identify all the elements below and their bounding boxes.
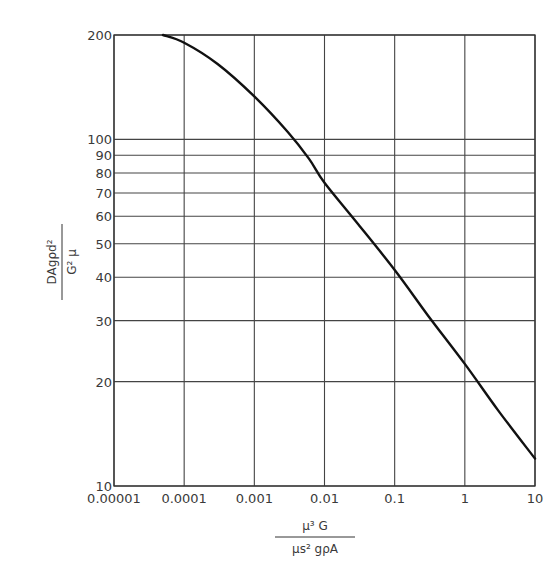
x-tick-label: 0.1: [384, 491, 405, 506]
y-label-numerator: DAgρd²: [45, 239, 59, 284]
x-axis-label: μ³ G μs² gρA: [275, 519, 355, 556]
y-label-denominator: G² μ: [65, 249, 79, 275]
x-label-denominator: μs² gρA: [292, 542, 339, 556]
x-label-numerator: μ³ G: [302, 519, 328, 533]
y-tick-label: 100: [87, 132, 112, 147]
grid-lines: [114, 35, 535, 486]
y-tick-label: 70: [95, 186, 112, 201]
y-tick-label: 90: [95, 148, 112, 163]
y-axis-tick-labels: 102030405060708090100200: [87, 28, 112, 494]
y-tick-label: 50: [95, 237, 112, 252]
x-tick-label: 0.0001: [161, 491, 207, 506]
x-axis-tick-labels: 0.000010.00010.0010.010.1110: [87, 491, 543, 506]
chart: 102030405060708090100200 0.000010.00010.…: [0, 0, 559, 587]
data-curve: [163, 35, 535, 459]
y-tick-label: 30: [95, 314, 112, 329]
y-axis-label: DAgρd² G² μ: [45, 224, 79, 300]
x-tick-label: 10: [527, 491, 544, 506]
y-tick-label: 80: [95, 166, 112, 181]
y-tick-label: 200: [87, 28, 112, 43]
x-tick-label: 0.01: [310, 491, 339, 506]
y-tick-label: 40: [95, 270, 112, 285]
y-tick-label: 60: [95, 209, 112, 224]
x-tick-label: 1: [461, 491, 469, 506]
x-tick-label: 0.001: [236, 491, 273, 506]
x-tick-label: 0.00001: [87, 491, 141, 506]
y-tick-label: 20: [95, 375, 112, 390]
